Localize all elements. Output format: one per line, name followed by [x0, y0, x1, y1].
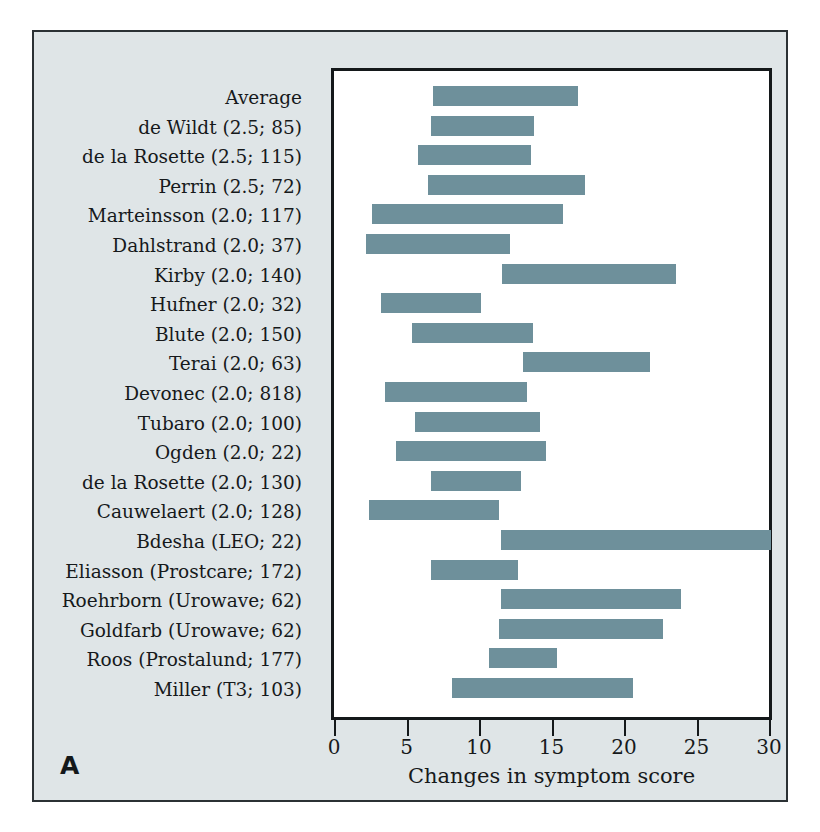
bar: [523, 352, 651, 372]
category-label: Goldfarb (Urowave; 62): [34, 622, 302, 641]
bar: [428, 175, 585, 195]
bar: [501, 589, 681, 609]
x-axis-tick-label: 20: [611, 737, 636, 757]
plot-area: [334, 71, 769, 717]
x-axis: Changes in symptom score 051015202530: [331, 720, 772, 810]
x-axis-tick: [407, 720, 409, 736]
x-axis-title: Changes in symptom score: [331, 766, 772, 787]
bar: [489, 648, 557, 668]
x-axis-tick-label: 0: [328, 737, 341, 757]
x-axis-tick: [769, 720, 771, 736]
category-label: Tubaro (2.0; 100): [34, 415, 302, 434]
bar: [412, 323, 532, 343]
category-label: Bdesha (LEO; 22): [34, 533, 302, 552]
x-axis-tick-label: 5: [400, 737, 413, 757]
panel-letter: A: [60, 753, 79, 778]
category-label: Marteinsson (2.0; 117): [34, 207, 302, 226]
figure-panel: Averagede Wildt (2.5; 85)de la Rosette (…: [32, 30, 788, 802]
category-label: Dahlstrand (2.0; 37): [34, 237, 302, 256]
plot-box: [331, 68, 772, 720]
bar: [501, 530, 771, 550]
category-label: Ogden (2.0; 22): [34, 444, 302, 463]
bar: [431, 116, 534, 136]
category-label: Average: [34, 89, 302, 108]
category-label: Kirby (2.0; 140): [34, 267, 302, 286]
category-label: Blute (2.0; 150): [34, 326, 302, 345]
bar: [502, 264, 676, 284]
bar: [452, 678, 633, 698]
bar: [499, 619, 663, 639]
x-axis-tick-label: 15: [539, 737, 564, 757]
x-axis-tick: [624, 720, 626, 736]
x-axis-tick-label: 25: [684, 737, 709, 757]
x-axis-tick-label: 30: [756, 737, 781, 757]
bar: [396, 441, 545, 461]
category-label: de Wildt (2.5; 85): [34, 119, 302, 138]
bar: [431, 560, 518, 580]
x-axis-tick: [334, 720, 336, 736]
category-label: Hufner (2.0; 32): [34, 296, 302, 315]
bar: [415, 412, 540, 432]
category-label: Terai (2.0; 63): [34, 355, 302, 374]
category-label: Roehrborn (Urowave; 62): [34, 592, 302, 611]
category-label: Miller (T3; 103): [34, 681, 302, 700]
category-label-column: Averagede Wildt (2.5; 85)de la Rosette (…: [34, 70, 302, 710]
x-axis-tick: [697, 720, 699, 736]
category-label: Devonec (2.0; 818): [34, 385, 302, 404]
bar: [433, 86, 578, 106]
x-axis-tick: [552, 720, 554, 736]
bar: [431, 471, 521, 491]
bar: [372, 204, 563, 224]
bar: [366, 234, 510, 254]
bar: [385, 382, 527, 402]
category-label: Perrin (2.5; 72): [34, 178, 302, 197]
category-label: Eliasson (Prostcare; 172): [34, 563, 302, 582]
bar: [381, 293, 481, 313]
category-label: de la Rosette (2.0; 130): [34, 474, 302, 493]
category-label: Roos (Prostalund; 177): [34, 651, 302, 670]
x-axis-tick: [479, 720, 481, 736]
x-axis-tick-label: 10: [466, 737, 491, 757]
bar: [369, 500, 500, 520]
bar: [418, 145, 531, 165]
category-label: de la Rosette (2.5; 115): [34, 148, 302, 167]
category-label: Cauwelaert (2.0; 128): [34, 503, 302, 522]
